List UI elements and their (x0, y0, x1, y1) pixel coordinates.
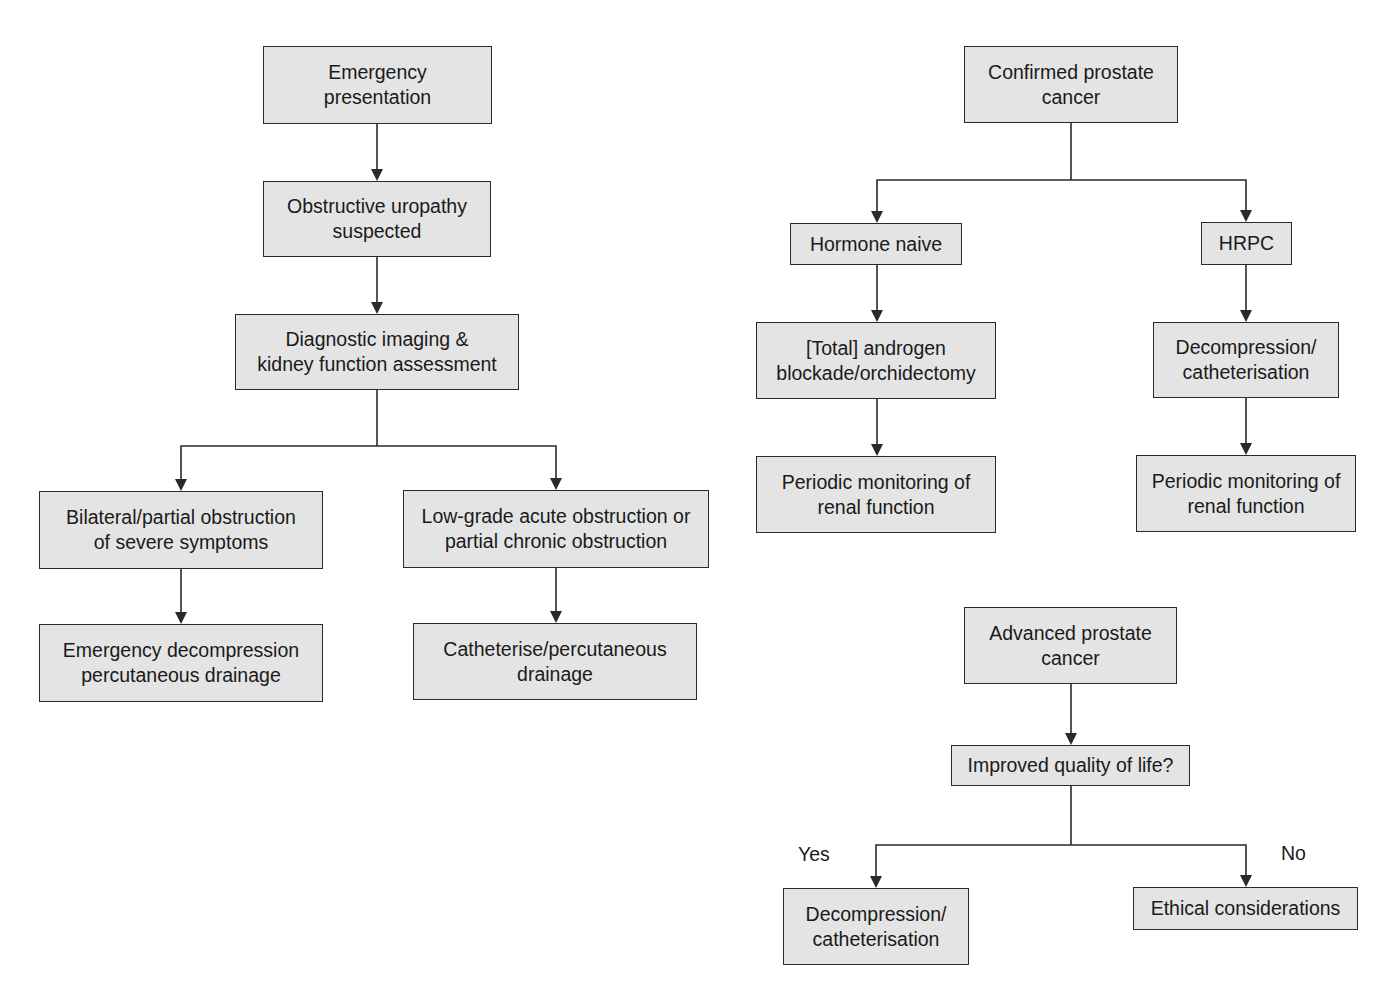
arrowhead-icon (1065, 733, 1077, 745)
arrowhead-icon (1240, 875, 1252, 887)
arrowhead-icon (871, 444, 883, 456)
arrowhead-icon (1240, 210, 1252, 222)
node-label: Low-grade acute obstruction or partial c… (422, 504, 691, 554)
node-label: Bilateral/partial obstruction of severe … (66, 505, 296, 555)
node-androgen-blockade: [Total] androgen blockade/orchidectomy (756, 322, 996, 399)
node-decompression-hrpc: Decompression/ catheterisation (1153, 322, 1339, 398)
node-label: Emergency decompression percutaneous dra… (63, 638, 299, 688)
node-advanced-prostate-cancer: Advanced prostate cancer (964, 607, 1177, 684)
node-diagnostic-imaging: Diagnostic imaging & kidney function ass… (235, 314, 519, 390)
connector-branch-no (1071, 845, 1246, 877)
connector-branch-hrpc (1071, 180, 1246, 212)
node-obstructive-uropathy: Obstructive uropathy suspected (263, 181, 491, 257)
node-low-grade-obstruction: Low-grade acute obstruction or partial c… (403, 490, 709, 568)
node-catheterise-drainage: Catheterise/percutaneous drainage (413, 623, 697, 700)
node-label: Obstructive uropathy suspected (287, 194, 467, 244)
arrowhead-icon (1240, 443, 1252, 455)
connector-branch-right (377, 446, 556, 480)
node-label: Diagnostic imaging & kidney function ass… (257, 327, 497, 377)
node-periodic-monitoring-right: Periodic monitoring of renal function (1136, 455, 1356, 532)
connector-branch-hormone (877, 180, 1071, 213)
arrowhead-icon (175, 479, 187, 491)
node-label: Hormone naive (810, 232, 942, 257)
arrowhead-icon (871, 211, 883, 223)
arrowhead-icon (1240, 310, 1252, 322)
node-label: Periodic monitoring of renal function (1152, 469, 1341, 519)
arrowhead-icon (175, 612, 187, 624)
arrowhead-icon (871, 310, 883, 322)
node-periodic-monitoring-left: Periodic monitoring of renal function (756, 456, 996, 533)
node-label: [Total] androgen blockade/orchidectomy (776, 336, 975, 386)
no-label: No (1281, 842, 1306, 865)
node-label: Decompression/ catheterisation (806, 902, 947, 952)
node-label: HRPC (1219, 231, 1274, 256)
arrowhead-icon (550, 611, 562, 623)
node-label: Advanced prostate cancer (989, 621, 1152, 671)
node-label: Improved quality of life? (968, 753, 1174, 778)
arrowhead-icon (371, 169, 383, 181)
node-label: Emergency presentation (324, 60, 431, 110)
yes-label: Yes (798, 843, 830, 866)
node-label: Catheterise/percutaneous drainage (443, 637, 666, 687)
node-label: Confirmed prostate cancer (988, 60, 1154, 110)
arrowhead-icon (550, 478, 562, 490)
node-label: Ethical considerations (1151, 896, 1341, 921)
node-emergency-presentation: Emergency presentation (263, 46, 492, 124)
connector-branch-left (181, 446, 377, 481)
node-emergency-decompression: Emergency decompression percutaneous dra… (39, 624, 323, 702)
node-hrpc: HRPC (1201, 222, 1292, 265)
arrowhead-icon (371, 302, 383, 314)
node-improved-quality-of-life: Improved quality of life? (951, 745, 1190, 786)
flowchart-canvas: Emergency presentationObstructive uropat… (0, 0, 1390, 993)
node-ethical-considerations: Ethical considerations (1133, 887, 1358, 930)
node-label: Periodic monitoring of renal function (782, 470, 971, 520)
node-bilateral-obstruction: Bilateral/partial obstruction of severe … (39, 491, 323, 569)
node-confirmed-prostate-cancer: Confirmed prostate cancer (964, 46, 1178, 123)
node-decompression-yes: Decompression/ catheterisation (783, 888, 969, 965)
node-label: Decompression/ catheterisation (1176, 335, 1317, 385)
connector-branch-yes (876, 845, 1071, 878)
node-hormone-naive: Hormone naive (790, 223, 962, 265)
arrowhead-icon (870, 876, 882, 888)
